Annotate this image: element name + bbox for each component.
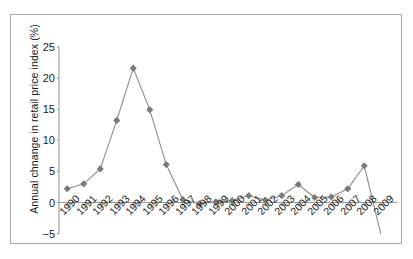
x-axis-tick-labels: 1990199119921993199419951996199719981999… [57, 191, 407, 251]
y-axis-tick-label: 0 [49, 197, 55, 209]
y-axis-tick-label: 25 [43, 41, 55, 53]
data-point-marker [131, 65, 136, 70]
y-axis-tick-label: 20 [43, 72, 55, 84]
y-axis-tick-labels: 2520151050−5 [29, 15, 55, 245]
data-point-marker [114, 118, 119, 123]
figure: Annual chnange in retail price index (%)… [0, 0, 413, 259]
y-axis-tick-label: 15 [43, 103, 55, 115]
data-point-marker [164, 162, 169, 167]
data-point-marker [147, 107, 152, 112]
chart-frame: Annual chnange in retail price index (%)… [10, 14, 402, 244]
y-axis-tick-label: 10 [43, 134, 55, 146]
y-axis-tick-label: −5 [42, 228, 55, 240]
y-axis-tick-label: 5 [49, 165, 55, 177]
